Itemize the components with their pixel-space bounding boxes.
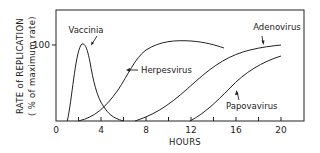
x-axis-title: HOURS [169, 137, 201, 147]
vaccinia-curve [67, 44, 123, 121]
x-tick-label-4: 4 [98, 125, 104, 135]
x-tick-label-0: 0 [53, 125, 59, 135]
herpesvirus-curve [79, 41, 225, 121]
adenovirus-label: Adenovirus [253, 22, 301, 32]
x-tick-label-16: 16 [230, 125, 242, 135]
x-tick-label-12: 12 [185, 125, 196, 135]
papovavirus-curve [190, 56, 281, 121]
adenovirus-arrowhead [262, 41, 265, 46]
x-tick-label-8: 8 [143, 125, 149, 135]
y-axis-subtitle: ( % of maximum rate) [27, 16, 37, 116]
x-ticks [79, 117, 282, 121]
papovavirus-label: Papovavirus [226, 101, 278, 111]
replication-rate-chart: 100 0 4 8 12 16 20 HOURS RATE of REPLICA… [0, 0, 320, 153]
papovavirus-arrowhead [235, 90, 239, 95]
herpesvirus-arrowhead [126, 68, 130, 72]
y-axis-title: RATE of REPLICATION [15, 18, 25, 114]
x-tick-label-20: 20 [275, 125, 287, 135]
herpesvirus-label: Herpesvirus [141, 65, 192, 75]
vaccinia-label: Vaccinia [68, 25, 103, 35]
